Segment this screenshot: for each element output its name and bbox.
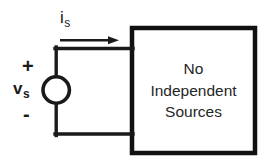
black-box-caption-line-2: Independent [150,81,236,101]
polarity-plus-sign: + [22,56,34,76]
source-voltage-symbol: v [13,79,22,98]
black-box-caption-line-1: No [184,59,204,79]
current-label: is [60,9,70,29]
black-box-caption-line-3: Sources [165,102,222,122]
current-arrow-head [108,36,119,44]
current-label-subscript: s [64,16,70,30]
polarity-minus-sign: - [23,104,30,124]
circuit-diagram-canvas: is + vs - No Independent Sources [0,0,269,163]
voltage-source-circle [43,77,69,103]
black-box-caption: No Independent Sources [134,30,253,151]
source-voltage-subscript: s [23,87,30,101]
source-voltage-label: vs [13,80,30,100]
